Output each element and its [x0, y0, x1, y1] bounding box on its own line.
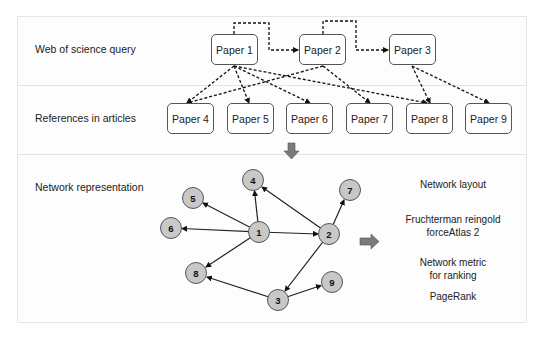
network-node-4[interactable]: 4	[243, 170, 264, 191]
edges-layer: 1 2 3 4 5 6 7 8 9	[0, 0, 541, 339]
paper-box-1[interactable]: Paper 1	[211, 34, 258, 65]
network-node-6[interactable]: 6	[161, 218, 182, 239]
svg-text:3: 3	[275, 295, 280, 306]
svg-text:2: 2	[326, 229, 331, 240]
right-arrow-icon	[360, 234, 379, 249]
network-node-9[interactable]: 9	[322, 272, 343, 293]
paper-box-2[interactable]: Paper 2	[299, 34, 346, 65]
network-node-7[interactable]: 7	[340, 180, 361, 201]
network-nodes: 1 2 3 4 5 6 7 8 9	[161, 170, 361, 311]
svg-text:4: 4	[250, 175, 256, 186]
down-arrow-icon	[284, 143, 299, 159]
network-node-5[interactable]: 5	[183, 188, 204, 209]
metric-pagerank: PageRank	[388, 290, 518, 303]
layout-algorithm-2: forceAtlas 2	[388, 226, 518, 239]
paper-box-8[interactable]: Paper 8	[406, 103, 453, 134]
paper-box-4[interactable]: Paper 4	[167, 103, 214, 134]
svg-text:7: 7	[347, 185, 352, 196]
metric-title-line1: Network metric	[388, 256, 518, 269]
network-layout-title: Network layout	[388, 178, 518, 191]
network-node-1[interactable]: 1	[249, 222, 270, 243]
svg-text:8: 8	[193, 268, 198, 279]
network-edges	[182, 187, 344, 300]
network-node-2[interactable]: 2	[319, 224, 340, 245]
network-node-8[interactable]: 8	[186, 263, 207, 284]
metric-title-line2: for ranking	[388, 269, 518, 282]
paper-box-3[interactable]: Paper 3	[389, 34, 436, 65]
citation-edges	[187, 66, 489, 103]
layout-algorithm-1: Fruchterman reingold	[388, 213, 518, 226]
network-node-3[interactable]: 3	[268, 290, 289, 311]
svg-text:1: 1	[256, 227, 262, 238]
svg-text:9: 9	[329, 277, 334, 288]
paper-box-6[interactable]: Paper 6	[286, 103, 333, 134]
svg-text:5: 5	[190, 193, 196, 204]
svg-text:6: 6	[168, 223, 173, 234]
paper-box-5[interactable]: Paper 5	[227, 103, 274, 134]
paper-box-7[interactable]: Paper 7	[346, 103, 393, 134]
paper-box-9[interactable]: Paper 9	[465, 103, 512, 134]
